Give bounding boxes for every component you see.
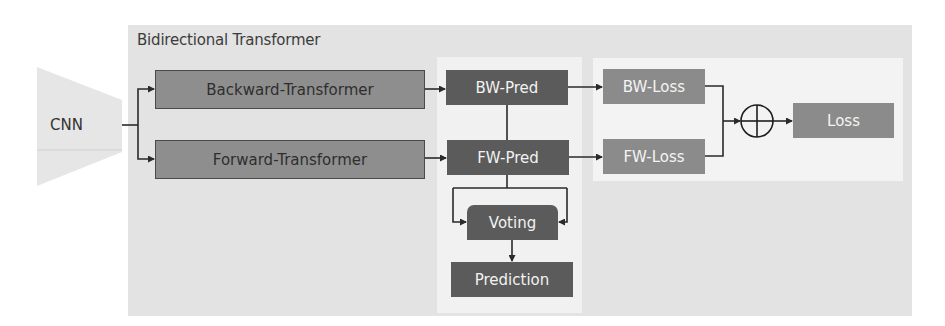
sum-operator-icon [741,105,773,137]
connector-lines [0,0,945,326]
